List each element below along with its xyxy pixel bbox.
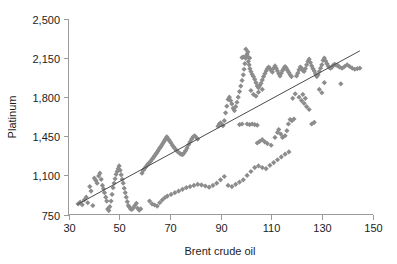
x-tick-label: 50 <box>113 222 125 234</box>
data-point <box>264 166 269 171</box>
data-point <box>218 177 223 182</box>
data-point <box>123 190 128 195</box>
data-point <box>338 81 343 86</box>
y-tick-label: 2,500 <box>32 14 60 26</box>
data-point <box>108 198 113 203</box>
x-tick-label: 30 <box>63 222 75 234</box>
data-point <box>85 200 90 205</box>
data-point <box>256 90 261 95</box>
data-point <box>286 121 291 126</box>
y-tick-label: 1,100 <box>32 170 60 182</box>
data-point <box>284 128 289 133</box>
data-point <box>88 188 93 193</box>
y-tick-labels: 7501,1001,4501,8002,1502,500 <box>32 14 60 222</box>
data-points-layer <box>76 47 363 214</box>
data-point <box>203 183 208 188</box>
y-axis: 7501,1001,4501,8002,1502,500 <box>32 14 68 222</box>
data-point <box>245 173 250 178</box>
data-point <box>279 154 284 159</box>
data-point <box>272 135 277 140</box>
x-tick-label: 70 <box>164 222 176 234</box>
data-point <box>241 72 246 77</box>
x-tick-label: 130 <box>313 222 331 234</box>
x-tick-label: 90 <box>215 222 227 234</box>
data-point <box>122 186 127 191</box>
data-point <box>87 184 92 189</box>
data-point <box>248 169 253 174</box>
data-point <box>226 183 231 188</box>
data-point <box>224 104 229 109</box>
data-point <box>222 174 227 179</box>
x-tick-labels: 30507090110130150 <box>63 222 382 234</box>
data-point <box>236 95 241 100</box>
data-point <box>241 67 246 72</box>
data-point <box>103 195 108 200</box>
data-point <box>109 192 114 197</box>
x-tick-label: 150 <box>364 222 382 234</box>
data-point <box>275 157 280 162</box>
data-point <box>121 181 126 186</box>
data-point <box>290 96 295 101</box>
x-tick-marks <box>70 215 374 220</box>
y-tick-label: 1,450 <box>32 131 60 143</box>
data-point <box>322 80 327 85</box>
data-point <box>238 83 243 88</box>
data-point <box>223 110 228 115</box>
data-point <box>293 91 298 96</box>
x-tick-label: 110 <box>263 222 281 234</box>
data-point <box>90 203 95 208</box>
data-point <box>300 92 305 97</box>
data-point <box>234 100 239 105</box>
data-point <box>188 184 193 189</box>
trendline <box>77 51 359 205</box>
data-point <box>267 163 272 168</box>
data-point <box>248 88 253 93</box>
y-tick-label: 1,800 <box>32 92 60 104</box>
data-point <box>125 199 130 204</box>
y-tick-label: 750 <box>42 210 60 222</box>
scatter-plot-svg: 7501,1001,4501,8002,1502,500 30507090110… <box>0 0 397 264</box>
y-tick-label: 2,150 <box>32 53 60 65</box>
x-axis-title: Brent crude oil <box>185 245 256 257</box>
data-point <box>199 182 204 187</box>
data-point <box>239 78 244 83</box>
y-axis-title: Platinum <box>6 96 18 139</box>
chart-figure: 7501,1001,4501,8002,1502,500 30507090110… <box>0 0 397 264</box>
data-point <box>113 176 118 181</box>
data-point <box>271 160 276 165</box>
data-point <box>191 183 196 188</box>
data-point <box>119 172 124 177</box>
data-point <box>237 89 242 94</box>
y-tick-marks <box>64 20 69 216</box>
x-axis: 30507090110130150 <box>63 215 382 235</box>
data-point <box>124 195 129 200</box>
